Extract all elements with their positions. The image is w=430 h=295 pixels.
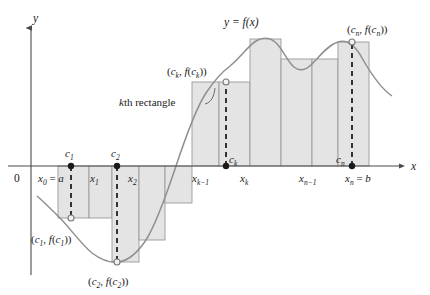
kth-rectangle-label: kth rectangle [119,96,176,108]
dot-ck-curve [223,79,229,85]
curve-equation-label: y = f(x) [223,16,259,29]
y-axis-label: y [32,12,39,25]
origin-label: 0 [14,172,20,184]
point-label-c1-fc1: (c1, f(c1)) [31,233,72,248]
rectangle-7 [219,82,250,166]
tick-label-xn: xn = b [344,172,371,187]
riemann-sum-figure: y x 0 x0 = a x1 x2 xk−1 xk xn−1 xn [0,0,430,295]
dot-c2-curve [114,259,120,265]
riemann-sum-svg: y x 0 x0 = a x1 x2 xk−1 xk xn−1 xn [0,0,430,295]
rectangle-9 [281,59,312,166]
tick-label-xk-1: xk−1 [191,172,209,187]
point-label-c2-fc2: (c2, f(c2)) [88,275,129,290]
dot-c2-axis [114,163,120,169]
dot-c1-curve [68,215,74,221]
dot-c1-axis [68,163,74,169]
positive-rectangles-group [192,39,369,166]
rectangle-8 [250,39,281,166]
tick-label-xk: xk [239,172,249,187]
sample-label-c1: c1 [65,147,74,162]
dot-cn-axis [349,163,355,169]
tick-label-xn-1: xn−1 [298,172,316,187]
sample-label-c2: c2 [111,147,120,162]
x-axis-label: x [410,160,417,172]
rectangle-10 [312,59,338,166]
point-label-cn-fcn: (cn, f(cn)) [347,23,388,38]
point-label-ck-fck: (ck, f(ck)) [167,65,207,80]
dot-cn-curve [349,39,355,45]
negative-rectangles-group [58,166,192,262]
